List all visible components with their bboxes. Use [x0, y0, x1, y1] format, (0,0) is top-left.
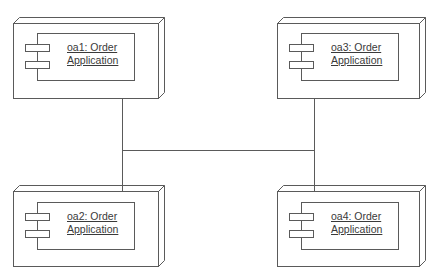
node-label-oa1-line2: Application: [67, 54, 118, 67]
node-label-oa1-line1: oa1: Order: [67, 41, 117, 54]
node-label-oa2-line1: oa2: Order: [67, 210, 117, 223]
node-label-oa2-line2: Application: [67, 223, 118, 236]
component-port-icon: [290, 231, 314, 238]
node-label-oa4-line2: Application: [331, 223, 382, 236]
node-label-oa3-line1: oa3: Order: [331, 41, 381, 54]
component-port-icon: [26, 214, 50, 221]
node-label-oa3-line2: Application: [331, 54, 382, 67]
component-port-icon: [290, 214, 314, 221]
component-port-icon: [26, 62, 50, 69]
component-port-icon: [26, 231, 50, 238]
component-port-icon: [26, 45, 50, 52]
component-port-icon: [290, 45, 314, 52]
component-port-icon: [290, 62, 314, 69]
connectors: [123, 98, 315, 191]
node-label-oa4-line1: oa4: Order: [331, 210, 381, 223]
